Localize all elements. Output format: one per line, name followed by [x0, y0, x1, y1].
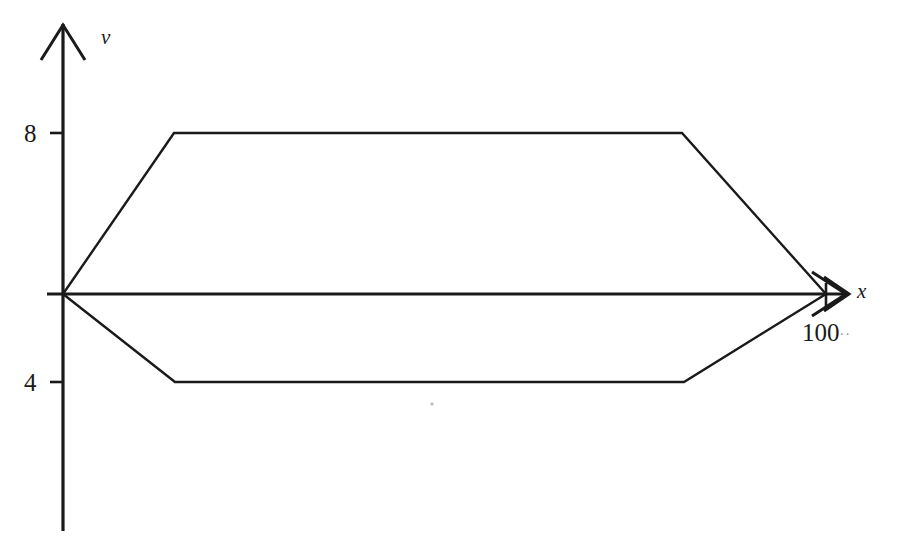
y-tick-label-4: 4 [24, 370, 37, 395]
scan-speck-artifact [430, 402, 433, 405]
series-upper-envelope [63, 133, 826, 294]
series-lower-envelope [63, 294, 826, 382]
chart-canvas [0, 0, 899, 559]
x-tick-label-100-text: 100 [802, 319, 840, 346]
x-tick-label-100-trailing-marks: ·· [840, 327, 851, 342]
x-axis-label: x [857, 281, 866, 302]
y-axis-label: v [101, 27, 110, 48]
x-tick-label-100: 100·· [802, 320, 851, 345]
figure-root: v x 8 4 100·· [0, 0, 899, 559]
y-tick-label-8: 8 [24, 121, 37, 146]
